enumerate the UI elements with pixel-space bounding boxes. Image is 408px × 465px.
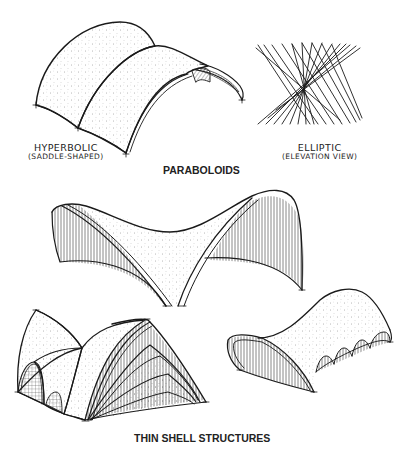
thin-shell-saddle-sketch [52,190,305,306]
paraboloids-caption: PARABOLOIDS [163,164,240,176]
hyperbolic-label-title: HYPERBOLIC [28,143,104,152]
elliptic-label-title: ELLIPTIC [282,143,357,152]
architectural-sketch [0,0,408,465]
elliptic-elevation-sketch [256,43,362,124]
hyperbolic-label-subtitle: (SADDLE-SHAPED) [28,152,104,161]
hyperbolic-label: HYPERBOLIC (SADDLE-SHAPED) [28,143,104,161]
thin-shell-caption: THIN SHELL STRUCTURES [134,432,270,444]
elliptic-label: ELLIPTIC (ELEVATION VIEW) [282,143,357,161]
thin-shell-flared-sketch [228,289,394,392]
thin-shell-sails-sketch [15,310,209,421]
hyperbolic-paraboloid-sketch [33,22,210,157]
elliptic-label-subtitle: (ELEVATION VIEW) [282,152,357,161]
saddle-edge-curl [196,64,245,103]
